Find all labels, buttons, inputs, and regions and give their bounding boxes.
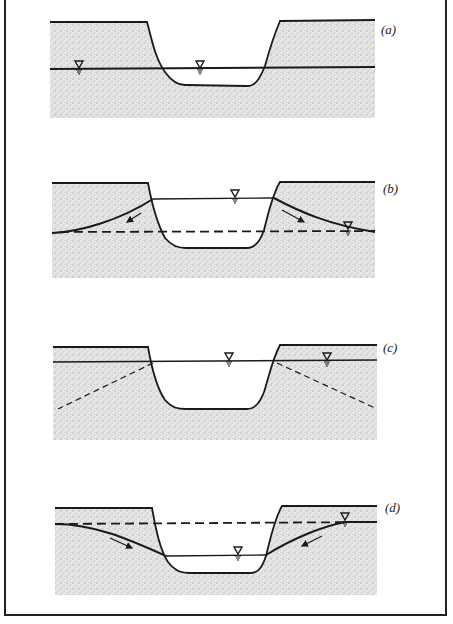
panel-d <box>55 506 377 595</box>
stream-aquifer-diagram <box>0 0 453 624</box>
panel-label-d: (d) <box>385 500 400 516</box>
panel-a <box>50 20 375 118</box>
panel-label-c: (c) <box>383 340 397 356</box>
panel-label-a: (a) <box>381 22 396 38</box>
panel-c <box>53 345 377 440</box>
caption-fragment <box>6 617 446 624</box>
panel-label-b: (b) <box>383 181 398 197</box>
panel-b <box>52 182 375 278</box>
